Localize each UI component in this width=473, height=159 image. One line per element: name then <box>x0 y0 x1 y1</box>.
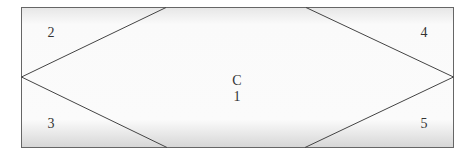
region-label-4: 4 <box>421 25 428 40</box>
partition-diagram: C 1 2 3 4 5 <box>0 0 473 159</box>
region-label-2: 2 <box>48 25 55 40</box>
center-label-line2: 1 <box>234 89 241 104</box>
center-label-line1: C <box>232 73 241 88</box>
region-label-5: 5 <box>421 116 428 131</box>
region-label-3: 3 <box>48 116 55 131</box>
